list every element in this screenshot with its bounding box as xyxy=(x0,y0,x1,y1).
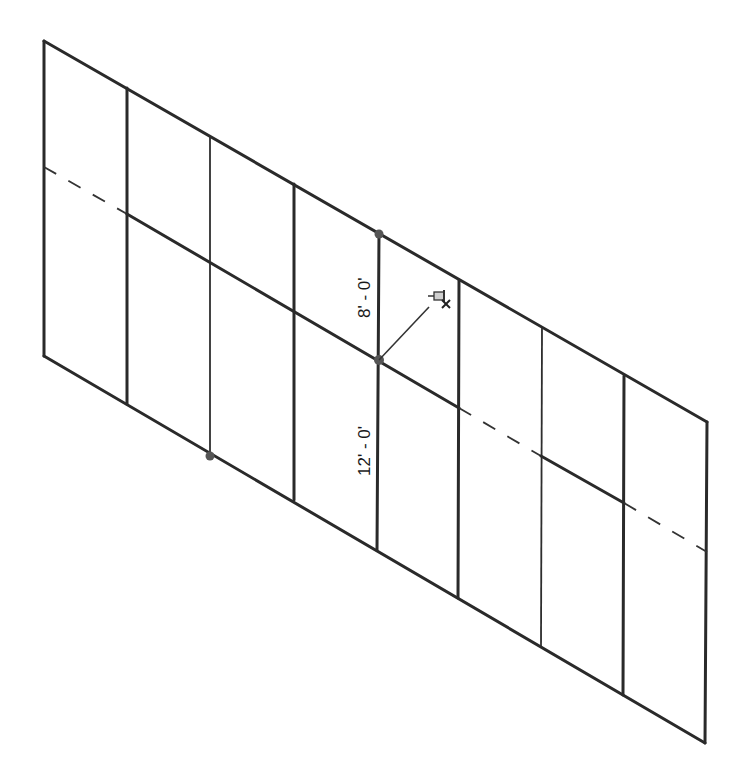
grip-top[interactable] xyxy=(375,230,384,239)
dimension-lower[interactable]: 12' - 0' xyxy=(355,426,374,476)
grid-line-7[interactable] xyxy=(623,376,624,695)
grip-bottom[interactable] xyxy=(206,452,215,461)
horizontal-grid-segment-b[interactable] xyxy=(541,456,624,503)
right-edge xyxy=(705,422,707,743)
pushpin-icon[interactable] xyxy=(428,290,450,308)
bottom-edge xyxy=(44,356,705,743)
grid-line-6[interactable] xyxy=(541,328,542,646)
grid-line-selected[interactable] xyxy=(377,233,379,550)
horizontal-grid-dashed-middle[interactable] xyxy=(459,408,541,456)
grid-line-5[interactable] xyxy=(458,280,459,598)
curtain-wall-diagram: 8' - 0' 12' - 0' xyxy=(0,0,753,784)
horizontal-grid-dashed-right[interactable] xyxy=(624,503,707,552)
pin-leader-line xyxy=(379,307,429,360)
horizontal-grid-dashed-left[interactable] xyxy=(44,167,127,214)
dimension-upper[interactable]: 8' - 0' xyxy=(355,277,374,318)
